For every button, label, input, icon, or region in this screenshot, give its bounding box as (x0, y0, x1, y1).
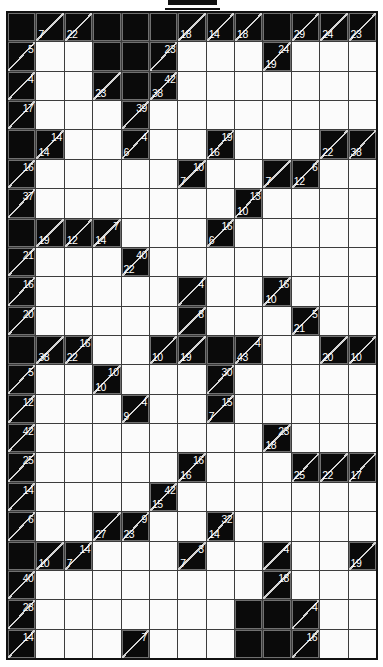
empty-cell[interactable] (36, 248, 63, 276)
empty-cell[interactable] (207, 72, 234, 100)
empty-cell[interactable] (36, 512, 63, 540)
empty-cell[interactable] (150, 189, 177, 217)
empty-cell[interactable] (292, 189, 319, 217)
empty-cell[interactable] (122, 600, 149, 628)
empty-cell[interactable] (150, 630, 177, 658)
empty-cell[interactable] (320, 424, 347, 452)
empty-cell[interactable] (178, 219, 205, 247)
empty-cell[interactable] (320, 365, 347, 393)
empty-cell[interactable] (263, 307, 290, 335)
empty-cell[interactable] (292, 365, 319, 393)
empty-cell[interactable] (235, 42, 262, 70)
empty-cell[interactable] (65, 630, 92, 658)
empty-cell[interactable] (65, 600, 92, 628)
empty-cell[interactable] (150, 277, 177, 305)
empty-cell[interactable] (93, 101, 120, 129)
empty-cell[interactable] (178, 630, 205, 658)
empty-cell[interactable] (150, 365, 177, 393)
empty-cell[interactable] (65, 101, 92, 129)
empty-cell[interactable] (65, 395, 92, 423)
empty-cell[interactable] (93, 453, 120, 481)
empty-cell[interactable] (320, 248, 347, 276)
empty-cell[interactable] (235, 101, 262, 129)
empty-cell[interactable] (320, 395, 347, 423)
empty-cell[interactable] (150, 571, 177, 599)
empty-cell[interactable] (65, 277, 92, 305)
empty-cell[interactable] (93, 307, 120, 335)
empty-cell[interactable] (235, 483, 262, 511)
empty-cell[interactable] (320, 42, 347, 70)
empty-cell[interactable] (93, 248, 120, 276)
empty-cell[interactable] (150, 542, 177, 570)
empty-cell[interactable] (235, 571, 262, 599)
empty-cell[interactable] (122, 277, 149, 305)
empty-cell[interactable] (235, 130, 262, 158)
empty-cell[interactable] (65, 160, 92, 188)
empty-cell[interactable] (36, 630, 63, 658)
empty-cell[interactable] (349, 307, 376, 335)
empty-cell[interactable] (150, 600, 177, 628)
empty-cell[interactable] (292, 571, 319, 599)
empty-cell[interactable] (207, 248, 234, 276)
empty-cell[interactable] (263, 219, 290, 247)
empty-cell[interactable] (320, 189, 347, 217)
empty-cell[interactable] (292, 512, 319, 540)
empty-cell[interactable] (150, 160, 177, 188)
empty-cell[interactable] (178, 365, 205, 393)
empty-cell[interactable] (207, 189, 234, 217)
empty-cell[interactable] (150, 424, 177, 452)
empty-cell[interactable] (65, 72, 92, 100)
empty-cell[interactable] (150, 453, 177, 481)
empty-cell[interactable] (122, 453, 149, 481)
empty-cell[interactable] (36, 453, 63, 481)
empty-cell[interactable] (207, 542, 234, 570)
empty-cell[interactable] (178, 424, 205, 452)
empty-cell[interactable] (349, 277, 376, 305)
empty-cell[interactable] (178, 483, 205, 511)
empty-cell[interactable] (178, 130, 205, 158)
empty-cell[interactable] (207, 307, 234, 335)
empty-cell[interactable] (36, 571, 63, 599)
empty-cell[interactable] (65, 512, 92, 540)
empty-cell[interactable] (36, 365, 63, 393)
empty-cell[interactable] (65, 130, 92, 158)
empty-cell[interactable] (235, 453, 262, 481)
empty-cell[interactable] (292, 42, 319, 70)
empty-cell[interactable] (235, 219, 262, 247)
empty-cell[interactable] (36, 160, 63, 188)
empty-cell[interactable] (122, 160, 149, 188)
empty-cell[interactable] (36, 189, 63, 217)
empty-cell[interactable] (207, 160, 234, 188)
empty-cell[interactable] (235, 72, 262, 100)
empty-cell[interactable] (93, 571, 120, 599)
empty-cell[interactable] (65, 42, 92, 70)
empty-cell[interactable] (349, 424, 376, 452)
empty-cell[interactable] (150, 512, 177, 540)
empty-cell[interactable] (349, 395, 376, 423)
empty-cell[interactable] (263, 365, 290, 393)
empty-cell[interactable] (320, 160, 347, 188)
empty-cell[interactable] (93, 542, 120, 570)
empty-cell[interactable] (122, 189, 149, 217)
empty-cell[interactable] (122, 365, 149, 393)
empty-cell[interactable] (235, 395, 262, 423)
empty-cell[interactable] (263, 512, 290, 540)
empty-cell[interactable] (349, 219, 376, 247)
empty-cell[interactable] (150, 307, 177, 335)
empty-cell[interactable] (235, 307, 262, 335)
empty-cell[interactable] (292, 424, 319, 452)
empty-cell[interactable] (349, 189, 376, 217)
empty-cell[interactable] (235, 542, 262, 570)
empty-cell[interactable] (36, 277, 63, 305)
empty-cell[interactable] (207, 277, 234, 305)
empty-cell[interactable] (349, 72, 376, 100)
empty-cell[interactable] (292, 101, 319, 129)
empty-cell[interactable] (178, 189, 205, 217)
empty-cell[interactable] (178, 571, 205, 599)
empty-cell[interactable] (207, 483, 234, 511)
empty-cell[interactable] (263, 248, 290, 276)
empty-cell[interactable] (178, 101, 205, 129)
empty-cell[interactable] (122, 571, 149, 599)
empty-cell[interactable] (150, 101, 177, 129)
empty-cell[interactable] (65, 248, 92, 276)
